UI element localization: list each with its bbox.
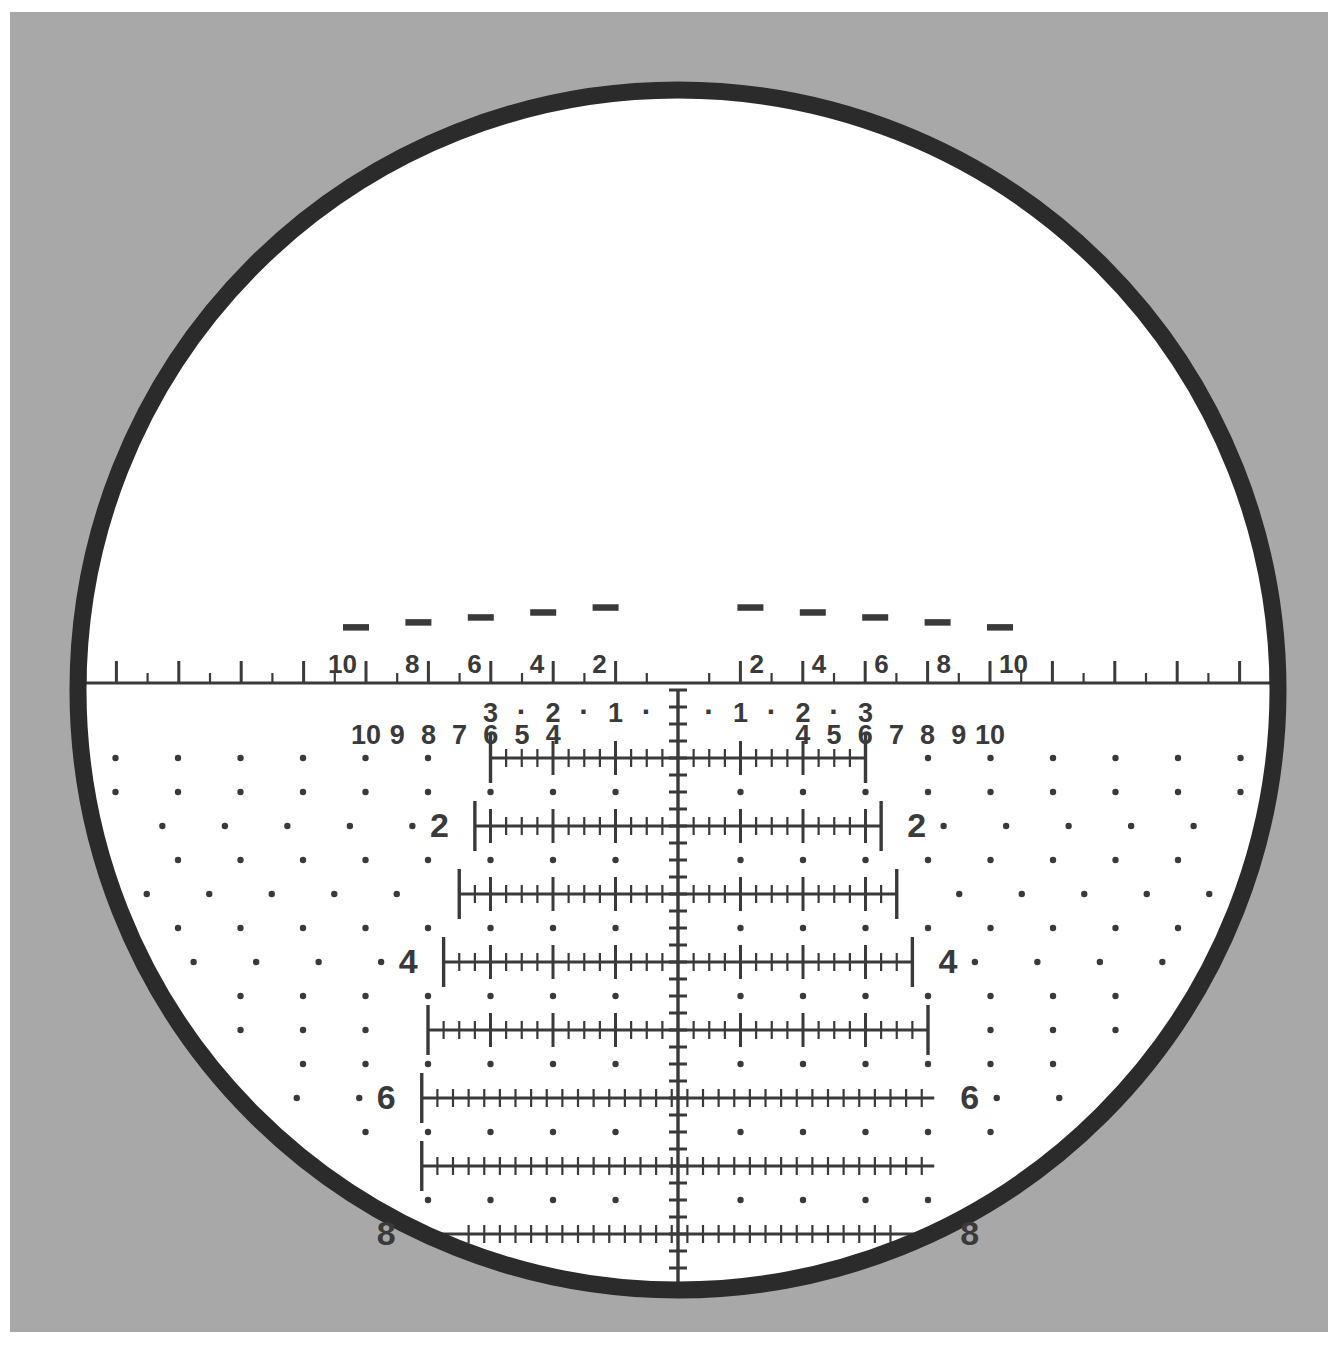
ladder-row-number-left: 8 xyxy=(377,1214,396,1252)
windage-scale-label: 10 xyxy=(999,649,1028,679)
ladder-row-number-left: 2 xyxy=(430,806,449,844)
center-windage-label: 2 xyxy=(795,698,810,728)
windage-scale-label: 6 xyxy=(874,649,888,679)
center-windage-label: · xyxy=(767,695,777,728)
ladder-row-number-right: 2 xyxy=(907,806,926,844)
windage-scale-label: 4 xyxy=(812,649,827,679)
scope-view: 10864224681010987654456789103·2·1··1·2·3… xyxy=(0,0,1338,1354)
ladder-row-number-right: 4 xyxy=(938,942,957,980)
center-windage-label: · xyxy=(517,695,527,728)
ladder-row-number-right: 8 xyxy=(960,1214,979,1252)
center-windage-label: 2 xyxy=(545,698,560,728)
center-windage-label: 3 xyxy=(483,698,498,728)
outer-windage-number: 10 xyxy=(975,720,1005,750)
ladder-row-number-left: 4 xyxy=(399,942,418,980)
center-windage-label: · xyxy=(704,695,714,728)
center-windage-label: 3 xyxy=(858,698,873,728)
windage-scale-label: 8 xyxy=(937,649,951,679)
windage-scale-label: 8 xyxy=(405,649,419,679)
windage-scale-label: 10 xyxy=(328,649,357,679)
center-windage-label: · xyxy=(829,695,839,728)
outer-windage-number: 9 xyxy=(390,720,405,750)
outer-windage-number: 10 xyxy=(351,720,381,750)
windage-scale-label: 2 xyxy=(592,649,606,679)
outer-windage-number: 9 xyxy=(951,720,966,750)
ladder-row-number-right: 6 xyxy=(960,1078,979,1116)
windage-scale-label: 4 xyxy=(530,649,545,679)
outer-windage-number: 7 xyxy=(889,720,904,750)
center-windage-label: 1 xyxy=(608,698,623,728)
outer-windage-number: 8 xyxy=(920,720,935,750)
windage-scale-label: 6 xyxy=(467,649,481,679)
outer-windage-number: 8 xyxy=(421,720,436,750)
outer-windage-number: 7 xyxy=(452,720,467,750)
center-windage-label: · xyxy=(579,695,589,728)
ladder-row-number-left: 6 xyxy=(377,1078,396,1116)
windage-scale-label: 2 xyxy=(749,649,763,679)
reticle-canvas: 10864224681010987654456789103·2·1··1·2·3… xyxy=(0,0,1338,1354)
center-windage-label: 1 xyxy=(733,698,748,728)
center-windage-label: · xyxy=(642,695,652,728)
